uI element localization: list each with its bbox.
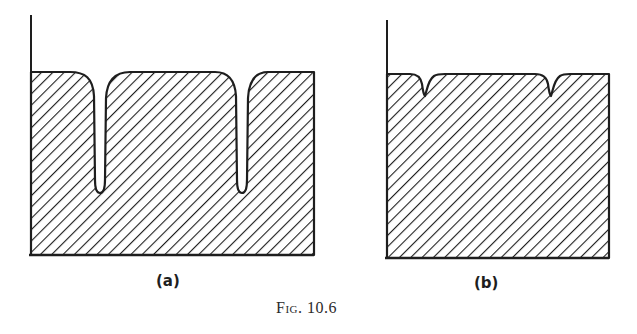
panel-a — [29, 15, 314, 255]
figure-10-6 — [0, 0, 637, 334]
panel-b-hatched-region — [387, 74, 609, 258]
panel-b-label: (b) — [474, 274, 498, 292]
panel-b — [385, 20, 609, 258]
panel-a-hatched-region — [31, 72, 314, 255]
panel-a-label: (a) — [156, 272, 180, 290]
figure-caption: Fig. 10.6 — [276, 299, 337, 317]
